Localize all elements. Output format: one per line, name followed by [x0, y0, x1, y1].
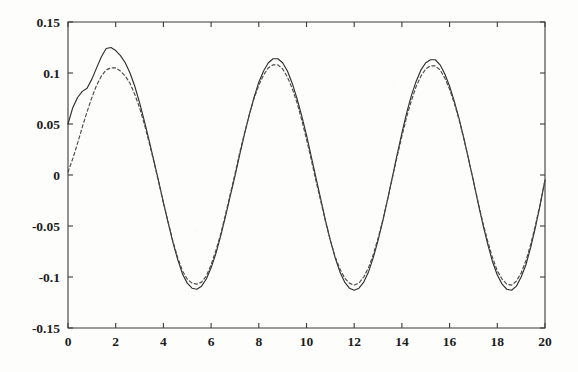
x-tick-label: 12 [347, 334, 361, 349]
y-tick-label: 0.1 [43, 66, 60, 81]
x-tick-label: 8 [255, 334, 262, 349]
y-tick-label: -0.15 [32, 321, 60, 336]
y-tick-label: 0.15 [36, 15, 60, 30]
x-tick-label: 2 [112, 334, 119, 349]
x-tick-label: 20 [538, 334, 552, 349]
x-tick-label: 10 [300, 334, 314, 349]
axes [68, 22, 545, 328]
x-tick-label: 14 [395, 334, 409, 349]
curve-dashed [68, 65, 545, 285]
x-tick-label: 18 [491, 334, 505, 349]
curve-solid [68, 48, 545, 291]
x-tick-label: 0 [65, 334, 72, 349]
y-tick-label: -0.05 [32, 219, 60, 234]
x-tick-label: 16 [443, 334, 457, 349]
axis-ticks [68, 22, 545, 328]
x-tick-label: 6 [208, 334, 215, 349]
data-curves [68, 48, 545, 291]
x-tick-label: 4 [160, 334, 167, 349]
y-tick-label: 0 [53, 168, 60, 183]
figure-canvas: 02468101214161820-0.15-0.1-0.0500.050.10… [0, 0, 578, 372]
y-tick-label: 0.05 [36, 117, 60, 132]
chart-plot: 02468101214161820-0.15-0.1-0.0500.050.10… [0, 0, 578, 372]
y-tick-label: -0.1 [39, 270, 61, 285]
